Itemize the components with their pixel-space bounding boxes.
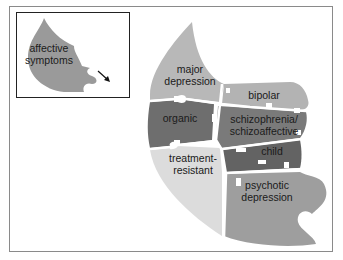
label-line: psychotic	[241, 179, 292, 191]
label-line: depression	[241, 191, 292, 203]
label-line: child	[261, 145, 283, 157]
label-line: schizophrenia/	[230, 113, 299, 125]
label-line: schizoaffective	[230, 125, 299, 137]
arrow-down-right-icon	[98, 71, 110, 82]
label-line: bipolar	[248, 89, 280, 101]
label-schizophrenia-schizoaffective: schizophrenia/ schizoaffective	[230, 113, 299, 137]
label-line: major	[164, 63, 215, 75]
label-major-depression: major depression	[164, 63, 215, 87]
label-line: organic	[163, 112, 197, 124]
label-organic: organic	[163, 112, 197, 124]
label-affective-symptoms: affective symptoms	[25, 42, 73, 66]
label-line: resistant	[169, 164, 217, 176]
label-line: symptoms	[25, 54, 73, 66]
label-child: child	[261, 145, 283, 157]
label-line: affective	[25, 42, 73, 54]
label-line: depression	[164, 75, 215, 87]
label-bipolar: bipolar	[248, 89, 280, 101]
label-line: treatment-	[169, 152, 217, 164]
label-psychotic-depression: psychotic depression	[241, 179, 292, 203]
label-treatment-resistant: treatment- resistant	[169, 152, 217, 176]
piece-organic	[148, 100, 214, 148]
piece-major-depression	[150, 22, 224, 102]
